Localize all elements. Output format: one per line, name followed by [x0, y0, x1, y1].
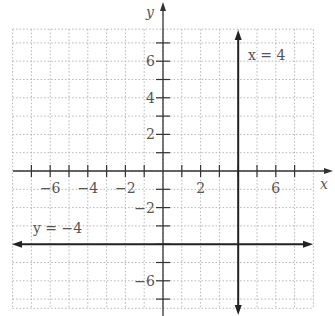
- y-tick-label: −6: [134, 273, 155, 289]
- y-axis-label: y: [145, 4, 155, 20]
- x-tick-label: 6: [271, 180, 280, 196]
- y-tick-label: 2: [146, 126, 155, 142]
- x-tick-label: −6: [40, 180, 61, 196]
- y-tick-label: −2: [134, 200, 155, 216]
- x-tick-label: −2: [115, 180, 136, 196]
- coordinate-graph: y x x = 4 y = −4 −6−4−226642−2−6: [0, 0, 335, 316]
- x-tick-label: −4: [77, 180, 98, 196]
- arrow-down-icon: [235, 305, 242, 315]
- x-tick-label: 2: [196, 180, 205, 196]
- y-axis-arrow-icon: [160, 2, 166, 11]
- arrow-up-icon: [235, 30, 242, 40]
- x-axis-arrow-icon: [324, 168, 333, 174]
- y-tick-label: 4: [146, 90, 155, 106]
- horizontal-line-label: y = −4: [32, 220, 82, 236]
- y-tick-label: 6: [146, 53, 155, 69]
- vertical-line-label: x = 4: [248, 47, 286, 63]
- arrow-left-icon: [12, 241, 22, 248]
- arrow-right-icon: [303, 241, 313, 248]
- x-axis-label: x: [320, 176, 328, 192]
